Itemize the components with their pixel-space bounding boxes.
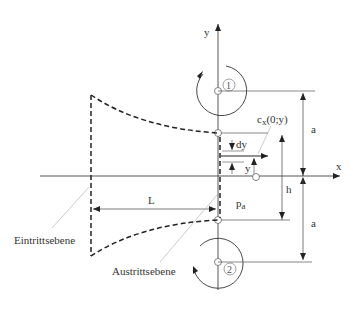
dimension-a-upper-label: a: [311, 123, 316, 135]
dimension-h-label: h: [286, 183, 292, 195]
dimension-a-lower-label: a: [311, 217, 316, 229]
rotation-arrow-icon: [193, 266, 198, 274]
velocity-leader: [258, 126, 271, 154]
jet-vortex-diagram: x y 1 2 a a h dy cx(0;y): [0, 0, 353, 310]
inlet-plane-label: Eintrittsebene: [14, 234, 75, 246]
y-axis-label: y: [204, 26, 210, 38]
dimension-L-label: L: [148, 194, 155, 206]
y-dimension-label: y: [245, 162, 251, 174]
x-axis-label: x: [336, 160, 342, 172]
outlet-plane-label: Austrittsebene: [112, 265, 176, 277]
nozzle-contour: [91, 95, 220, 256]
vortex-1: 1: [197, 65, 247, 116]
velocity-label: cx(0;y): [257, 113, 288, 127]
pressure-label: pa: [236, 197, 246, 211]
vortex-1-label: 1: [226, 80, 231, 91]
dy-label: dy: [236, 138, 248, 150]
vortex-2-label: 2: [227, 264, 232, 275]
